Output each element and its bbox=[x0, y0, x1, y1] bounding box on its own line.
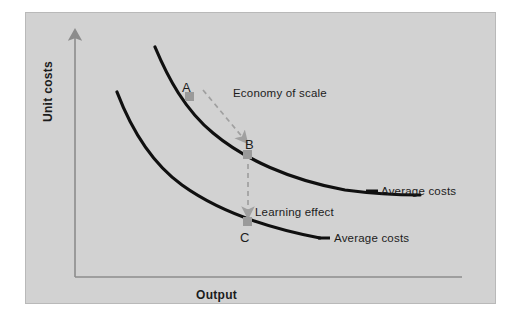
y-axis-title: Unit costs bbox=[41, 61, 55, 122]
marker-point-c bbox=[243, 217, 252, 226]
x-axis-title: Output bbox=[196, 288, 237, 302]
curve-label-average-costs-upper: Average costs bbox=[381, 185, 456, 197]
curve-label-average-costs-lower: Average costs bbox=[334, 232, 409, 244]
point-label-a: A bbox=[182, 80, 191, 95]
point-label-b: B bbox=[245, 137, 254, 152]
point-label-c: C bbox=[240, 230, 250, 245]
annotation-learning-effect: Learning effect bbox=[255, 206, 334, 218]
cost-curve-diagram bbox=[0, 0, 521, 320]
annotation-economy-of-scale: Economy of scale bbox=[233, 87, 327, 99]
average-costs-curve-upper bbox=[155, 47, 420, 195]
